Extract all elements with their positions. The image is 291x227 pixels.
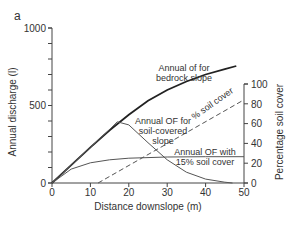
- svg-text:10: 10: [85, 187, 97, 198]
- svg-text:15% soil cover: 15% soil cover: [176, 157, 235, 167]
- annotation-soil-cover: % soil cover: [190, 86, 235, 122]
- svg-text:0: 0: [251, 178, 257, 189]
- left-axis-ticks: [48, 28, 52, 183]
- svg-text:500: 500: [29, 100, 46, 111]
- discharge-chart: a 0 10 20 30 40 50 0 500 1000 0 20 40 60…: [0, 0, 291, 227]
- y-axis-title: Annual discharge (l): [7, 68, 18, 157]
- y-right-axis-title: Percentage soil cover: [274, 83, 285, 180]
- y-tick-labels: 0 500 1000: [24, 23, 47, 189]
- svg-text:Annual of for: Annual of for: [158, 63, 209, 73]
- svg-text:1000: 1000: [24, 23, 47, 34]
- svg-text:Annual OF for: Annual OF for: [135, 116, 191, 126]
- x-tick-labels: 0 10 20 30 40 50: [49, 187, 250, 198]
- x-axis-title: Distance downslope (m): [94, 201, 201, 212]
- svg-text:60: 60: [251, 118, 263, 129]
- svg-text:30: 30: [162, 187, 174, 198]
- svg-text:0: 0: [40, 178, 46, 189]
- svg-text:bedrock slope: bedrock slope: [156, 73, 212, 83]
- right-axis: [244, 84, 248, 183]
- y-right-tick-labels: 0 20 40 60 80 100: [251, 79, 268, 189]
- panel-label: a: [14, 9, 21, 23]
- annotation-soil-covered: Annual OF for soil-covered slope: [135, 116, 191, 146]
- x-axis-ticks: [52, 183, 244, 187]
- svg-text:20: 20: [251, 158, 263, 169]
- annotation-15-percent: Annual OF with 15% soil cover: [174, 147, 236, 167]
- svg-text:Annual OF with: Annual OF with: [174, 147, 236, 157]
- svg-text:40: 40: [200, 187, 212, 198]
- svg-text:20: 20: [123, 187, 135, 198]
- svg-text:slope: slope: [152, 136, 174, 146]
- svg-text:40: 40: [251, 138, 263, 149]
- svg-text:soil-covered: soil-covered: [139, 126, 188, 136]
- svg-text:0: 0: [49, 187, 55, 198]
- annotation-bedrock: Annual of for bedrock slope: [156, 63, 212, 83]
- svg-text:80: 80: [251, 99, 263, 110]
- svg-text:100: 100: [251, 79, 268, 90]
- right-axis-ticks: [244, 84, 248, 183]
- svg-text:50: 50: [238, 187, 250, 198]
